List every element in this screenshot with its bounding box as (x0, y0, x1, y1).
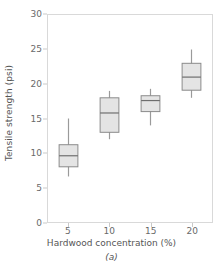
y-tick-label: 5 (16, 183, 46, 193)
x-axis-label-text: Hardwood concentration (%) (47, 238, 176, 248)
x-tick-mark (68, 223, 69, 227)
boxes-group (59, 50, 201, 177)
boxplot-figure: Tensile strength (psi) 051015202530 5101… (0, 0, 223, 270)
y-tick-label: 15 (16, 114, 46, 124)
y-axis-label-text: Tensile strength (psi) (4, 65, 14, 161)
y-tick-mark (43, 223, 47, 224)
y-tick-mark (43, 188, 47, 189)
y-tick-mark (43, 83, 47, 84)
y-tick-label: 30 (16, 9, 46, 19)
y-tick-mark (43, 14, 47, 15)
box-plot-item (182, 50, 201, 98)
y-tick-label: 10 (16, 148, 46, 158)
x-tick-label: 20 (187, 226, 198, 236)
box-rect (141, 96, 160, 112)
y-tick-label: 20 (16, 79, 46, 89)
x-tick-label: 5 (65, 226, 71, 236)
figure-caption-text: (a) (105, 252, 118, 262)
x-tick-mark (192, 223, 193, 227)
box-plot-item (59, 119, 78, 177)
y-axis-tick-labels: 051015202530 (16, 0, 46, 270)
y-tick-mark (43, 48, 47, 49)
x-tick-label: 15 (145, 226, 156, 236)
y-tick-mark (43, 153, 47, 154)
y-tick-label: 25 (16, 44, 46, 54)
x-tick-mark (151, 223, 152, 227)
box-plot-item (141, 89, 160, 126)
figure-caption: (a) (0, 252, 223, 262)
boxplot-svg (48, 15, 212, 222)
box-rect (100, 98, 119, 133)
x-axis-label: Hardwood concentration (%) (0, 238, 223, 248)
x-tick-label: 10 (104, 226, 115, 236)
y-tick-mark (43, 118, 47, 119)
y-tick-label: 0 (16, 218, 46, 228)
x-tick-mark (109, 223, 110, 227)
box-plot-item (100, 91, 119, 139)
plot-area (47, 14, 213, 223)
